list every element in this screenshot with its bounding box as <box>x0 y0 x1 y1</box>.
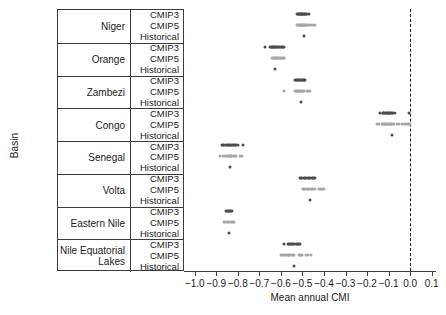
plot-panel <box>184 9 436 271</box>
basin-scenario-table: NigerCMIP3CMIP5HistoricalOrangeCMIP3CMIP… <box>57 9 184 271</box>
x-axis-tick <box>302 272 303 276</box>
x-axis-tick <box>216 272 217 276</box>
data-point <box>391 133 394 136</box>
scenario-label-cell: CMIP3CMIP5Historical <box>130 240 183 272</box>
data-point <box>283 57 286 60</box>
data-point <box>304 78 307 81</box>
basin-name-label: Nile EquatorialLakes <box>58 240 130 272</box>
x-axis-tick <box>346 272 347 276</box>
x-axis-tick-label: −0.5 <box>293 278 313 289</box>
x-axis-tick <box>432 272 433 276</box>
scenario-label-cell: CMIP3CMIP5Historical <box>130 208 183 240</box>
x-axis-tick <box>281 272 282 276</box>
basin-row-group: SenegalCMIP3CMIP5Historical <box>58 141 183 174</box>
scenario-label-cell: CMIP3CMIP5Historical <box>130 44 183 76</box>
data-point <box>283 89 286 92</box>
data-point <box>231 209 234 212</box>
basin-name-label: Orange <box>58 44 130 76</box>
x-axis-tick-label: −0.3 <box>336 278 356 289</box>
x-axis-tick <box>389 272 390 276</box>
x-axis-tick-label: −0.9 <box>206 278 226 289</box>
scenario-label-historical: Historical <box>131 262 183 273</box>
scenario-label-cell: CMIP3CMIP5Historical <box>130 109 183 141</box>
data-point <box>273 68 276 71</box>
basin-row-group: ZambeziCMIP3CMIP5Historical <box>58 76 183 109</box>
basin-name-label: Eastern Nile <box>58 208 130 240</box>
basin-row-group: Nile EquatorialLakesCMIP3CMIP5Historical <box>58 239 183 272</box>
data-point <box>309 253 312 256</box>
x-axis-tick <box>367 272 368 276</box>
data-point <box>409 122 412 125</box>
scenario-label-cmip5: CMIP5 <box>131 120 183 131</box>
data-point <box>241 144 244 147</box>
data-point <box>308 199 311 202</box>
basin-name-label: Niger <box>58 10 130 43</box>
x-axis-tick-label: −0.1 <box>379 278 399 289</box>
x-axis-tick-label: −0.8 <box>228 278 248 289</box>
data-point <box>233 220 236 223</box>
zero-reference-line <box>410 9 411 271</box>
data-point <box>293 264 296 267</box>
x-axis-tick-label: −0.6 <box>271 278 291 289</box>
data-point <box>313 188 316 191</box>
data-point <box>313 24 316 27</box>
basin-name-label: Volta <box>58 175 130 207</box>
x-axis-tick-label: 0.0 <box>403 278 417 289</box>
scenario-label-cell: CMIP3CMIP5Historical <box>130 175 183 207</box>
x-axis-tick <box>195 272 196 276</box>
data-point <box>293 253 296 256</box>
data-point <box>283 46 286 49</box>
x-axis-tick-label: −0.4 <box>314 278 334 289</box>
basin-name-label: Congo <box>58 109 130 141</box>
data-point <box>299 100 302 103</box>
data-point <box>236 144 239 147</box>
data-point <box>282 242 285 245</box>
basin-row-group: VoltaCMIP3CMIP5Historical <box>58 174 183 207</box>
basin-row-group: OrangeCMIP3CMIP5Historical <box>58 43 183 76</box>
data-point <box>408 111 411 114</box>
data-point <box>314 177 317 180</box>
data-point <box>394 111 397 114</box>
y-axis-title: Basin <box>9 116 20 176</box>
data-point <box>323 188 326 191</box>
data-point <box>240 155 243 158</box>
x-axis-tick-label: −0.2 <box>357 278 377 289</box>
basin-name-label: Senegal <box>58 142 130 174</box>
x-axis-tick-label: 0.1 <box>425 278 439 289</box>
data-point <box>309 89 312 92</box>
x-axis-tick <box>410 272 411 276</box>
x-axis-tick-label: −0.7 <box>250 278 270 289</box>
scenario-label-cmip5: CMIP5 <box>131 251 183 262</box>
x-axis-title: Mean annual CMI <box>184 292 436 303</box>
chart-figure: Basin NigerCMIP3CMIP5HistoricalOrangeCMI… <box>0 0 446 315</box>
x-axis: −1.0−0.9−0.8−0.7−0.6−0.5−0.4−0.3−0.2−0.1… <box>184 271 436 272</box>
data-point <box>303 35 306 38</box>
x-axis-tick <box>238 272 239 276</box>
basin-row-group: NigerCMIP3CMIP5Historical <box>58 10 183 43</box>
scenario-label-historical: Historical <box>131 131 183 142</box>
scenario-label-historical: Historical <box>131 32 183 43</box>
basin-row-group: Eastern NileCMIP3CMIP5Historical <box>58 207 183 240</box>
basin-name-label: Zambezi <box>58 77 130 109</box>
data-point <box>228 231 231 234</box>
scenario-label-cell: CMIP3CMIP5Historical <box>130 142 183 174</box>
data-point <box>228 166 231 169</box>
x-axis-tick <box>324 272 325 276</box>
data-point <box>298 242 301 245</box>
x-axis-tick-label: −1.0 <box>185 278 205 289</box>
scenario-label-cell: CMIP3CMIP5Historical <box>130 10 183 43</box>
data-point <box>301 253 304 256</box>
data-point <box>235 155 238 158</box>
data-point <box>307 13 310 16</box>
x-axis-tick <box>259 272 260 276</box>
data-point <box>264 46 267 49</box>
basin-row-group: CongoCMIP3CMIP5Historical <box>58 108 183 141</box>
scenario-label-cell: CMIP3CMIP5Historical <box>130 77 183 109</box>
